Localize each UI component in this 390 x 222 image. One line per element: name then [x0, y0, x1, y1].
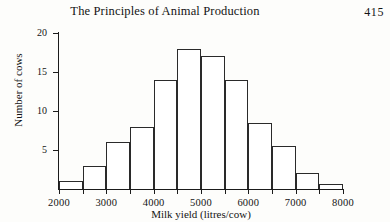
x-axis-tick [296, 189, 297, 194]
x-axis-tick [225, 189, 226, 194]
x-axis-tick-label: 8000 [320, 197, 366, 208]
histogram-bar [106, 142, 130, 189]
y-axis-title: Number of cows [12, 30, 24, 150]
x-axis-tick-label: 6000 [225, 197, 271, 208]
book-page: The Principles of Animal Production 415 … [0, 0, 390, 222]
x-axis-tick [59, 189, 60, 194]
x-axis-title: Milk yield (litres/cow) [58, 208, 344, 220]
histogram-bar [319, 184, 343, 189]
page-number: 415 [364, 5, 384, 20]
x-axis-tick [130, 189, 131, 194]
histogram-bar [248, 123, 272, 189]
x-axis-tick-label: 4000 [131, 197, 177, 208]
histogram-bar [154, 80, 178, 189]
page-title: The Principles of Animal Production [0, 4, 330, 19]
x-axis-tick-label: 2000 [36, 197, 82, 208]
histogram-figure: 5101520 2000300040005000600070008000 Num… [0, 22, 390, 222]
histogram-bar [177, 49, 201, 189]
histogram-bar [272, 146, 296, 189]
running-head: The Principles of Animal Production 415 [0, 4, 390, 22]
x-axis-tick [177, 189, 178, 194]
x-axis-tick-label: 3000 [83, 197, 129, 208]
x-axis-tick [272, 189, 273, 194]
histogram-bar [83, 166, 107, 189]
histogram-bar [130, 127, 154, 189]
x-axis-tick [248, 189, 249, 194]
x-axis-tick [201, 189, 202, 194]
x-axis-tick [106, 189, 107, 194]
x-axis-tick [319, 189, 320, 194]
x-axis-tick [83, 189, 84, 194]
histogram-bar [225, 80, 249, 189]
x-axis-tick [343, 189, 344, 194]
histogram-bar [59, 181, 83, 189]
x-axis-tick-label: 7000 [273, 197, 319, 208]
histogram-bar [201, 56, 225, 189]
plot-area [59, 33, 343, 189]
histogram-bar [296, 173, 320, 189]
x-axis-tick-label: 5000 [178, 197, 224, 208]
x-axis-tick [154, 189, 155, 194]
